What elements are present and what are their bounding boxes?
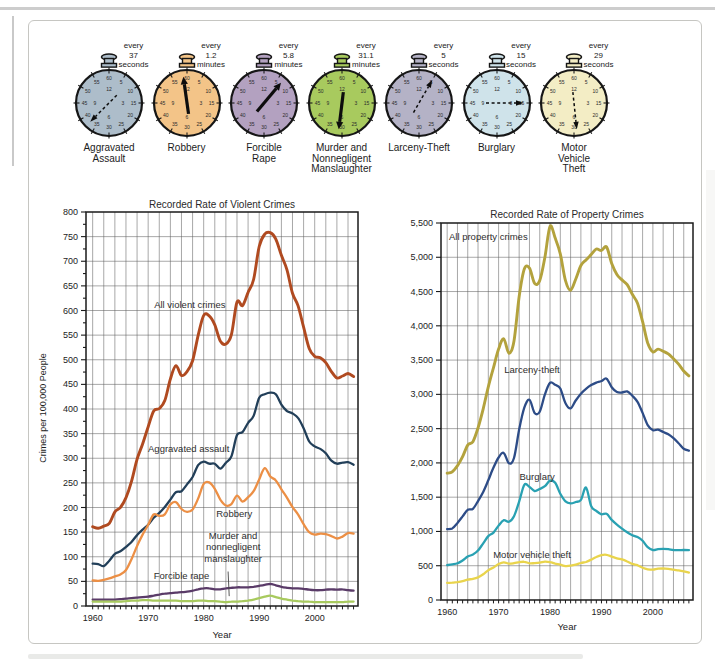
stopwatch-icon: 6051015202530354045505512369 bbox=[70, 51, 148, 141]
svg-text:5: 5 bbox=[275, 79, 278, 85]
stopwatch-icon: 6051015202530354045505512369 bbox=[225, 51, 303, 141]
caption-bleed bbox=[28, 654, 583, 659]
svg-text:500: 500 bbox=[63, 355, 78, 365]
svg-text:50: 50 bbox=[68, 576, 78, 586]
svg-text:45: 45 bbox=[314, 100, 320, 106]
y-axis-ticks: 05001,0001,5002,0002,5003,0003,5004,0004… bbox=[410, 218, 441, 605]
svg-text:10: 10 bbox=[127, 88, 133, 94]
svg-text:1980: 1980 bbox=[194, 613, 214, 623]
svg-text:50: 50 bbox=[395, 88, 401, 94]
svg-text:25: 25 bbox=[351, 121, 357, 127]
series-label-forcible-rape: Forcible rape bbox=[154, 570, 209, 581]
crime-clocks-row: every37seconds60510152025303540455055123… bbox=[70, 41, 613, 186]
svg-text:15: 15 bbox=[363, 100, 369, 106]
series-label-burglary: Burglary bbox=[519, 471, 555, 482]
svg-text:30: 30 bbox=[184, 124, 190, 130]
murder-label-leader-line bbox=[228, 572, 229, 597]
svg-text:6: 6 bbox=[418, 114, 421, 120]
svg-text:60: 60 bbox=[106, 75, 112, 81]
svg-text:10: 10 bbox=[205, 88, 211, 94]
svg-text:3: 3 bbox=[277, 100, 280, 106]
svg-text:55: 55 bbox=[94, 79, 100, 85]
crime-clock-aggravated-assault: every37seconds60510152025303540455055123… bbox=[70, 41, 148, 186]
svg-text:60: 60 bbox=[494, 75, 500, 81]
svg-text:55: 55 bbox=[249, 79, 255, 85]
svg-text:650: 650 bbox=[63, 281, 78, 291]
svg-text:25: 25 bbox=[583, 121, 589, 127]
x-axis-ticks: 19601970198019902000 bbox=[83, 606, 354, 623]
svg-text:10: 10 bbox=[437, 88, 443, 94]
clock-crime-label: Larceny-Theft bbox=[376, 143, 462, 154]
svg-text:5,000: 5,000 bbox=[410, 252, 433, 262]
crime-clock-burglary: every15seconds60510152025303540455055123… bbox=[458, 41, 536, 186]
svg-text:25: 25 bbox=[428, 121, 434, 127]
series-label-motor-vehicle-theft: Motor vehicle theft bbox=[493, 549, 571, 560]
svg-text:12: 12 bbox=[571, 86, 577, 92]
svg-text:50: 50 bbox=[163, 88, 169, 94]
svg-text:4,500: 4,500 bbox=[410, 287, 433, 297]
svg-text:800: 800 bbox=[63, 207, 78, 217]
svg-text:700: 700 bbox=[63, 256, 78, 266]
svg-text:35: 35 bbox=[326, 121, 332, 127]
stopwatch-icon: 6051015202530354045505512369 bbox=[148, 51, 226, 141]
svg-text:0: 0 bbox=[73, 601, 78, 611]
svg-text:3,500: 3,500 bbox=[410, 355, 433, 365]
svg-text:55: 55 bbox=[404, 79, 410, 85]
svg-text:450: 450 bbox=[63, 379, 78, 389]
crime-clock-larceny-theft: every5seconds605101520253035404550551236… bbox=[380, 41, 458, 186]
crime-clock-murder-and-nonnegligent-manslaughter: every31.1minutes605101520253035404550551… bbox=[303, 41, 381, 186]
svg-text:5: 5 bbox=[585, 79, 588, 85]
svg-text:9: 9 bbox=[404, 100, 407, 106]
svg-text:5: 5 bbox=[352, 79, 355, 85]
y-axis-ticks: 0501001502002503003504004505005506006507… bbox=[63, 207, 86, 611]
svg-text:35: 35 bbox=[559, 121, 565, 127]
clock-crime-label: MotorVehicleTheft bbox=[531, 143, 617, 175]
svg-text:9: 9 bbox=[326, 100, 329, 106]
svg-text:10: 10 bbox=[360, 88, 366, 94]
svg-text:6: 6 bbox=[263, 114, 266, 120]
svg-text:12: 12 bbox=[494, 86, 500, 92]
svg-text:1990: 1990 bbox=[591, 607, 611, 617]
svg-text:5,500: 5,500 bbox=[410, 218, 433, 228]
svg-text:60: 60 bbox=[339, 75, 345, 81]
svg-text:1980: 1980 bbox=[540, 607, 560, 617]
svg-text:3: 3 bbox=[199, 100, 202, 106]
svg-text:1,000: 1,000 bbox=[410, 526, 433, 536]
svg-text:40: 40 bbox=[163, 112, 169, 118]
svg-text:5: 5 bbox=[120, 79, 123, 85]
series-label-murder-and: Murder and bbox=[209, 530, 258, 541]
svg-text:5: 5 bbox=[507, 79, 510, 85]
svg-text:6: 6 bbox=[495, 114, 498, 120]
svg-text:30: 30 bbox=[261, 124, 267, 130]
clock-crime-label: Murder andNonnegligentManslaughter bbox=[299, 143, 385, 175]
series-label-all-property-crimes: All property crimes bbox=[449, 231, 528, 242]
svg-text:750: 750 bbox=[63, 232, 78, 242]
grid-lines bbox=[441, 223, 693, 600]
svg-text:60: 60 bbox=[571, 75, 577, 81]
svg-text:50: 50 bbox=[318, 88, 324, 94]
svg-text:10: 10 bbox=[282, 88, 288, 94]
svg-text:25: 25 bbox=[118, 121, 124, 127]
svg-text:25: 25 bbox=[196, 121, 202, 127]
svg-text:10: 10 bbox=[592, 88, 598, 94]
svg-text:55: 55 bbox=[326, 79, 332, 85]
svg-text:9: 9 bbox=[481, 100, 484, 106]
svg-text:2,000: 2,000 bbox=[410, 458, 433, 468]
x-axis-ticks: 19601970198019902000 bbox=[437, 600, 689, 617]
svg-text:150: 150 bbox=[63, 527, 78, 537]
svg-text:1970: 1970 bbox=[489, 607, 509, 617]
svg-text:15: 15 bbox=[441, 100, 447, 106]
clock-crime-label: AggravatedAssault bbox=[66, 143, 152, 164]
svg-text:400: 400 bbox=[63, 404, 78, 414]
page-margin-line bbox=[12, 16, 14, 166]
svg-text:20: 20 bbox=[282, 112, 288, 118]
svg-text:2000: 2000 bbox=[643, 607, 663, 617]
violent-crimes-chart: 0501001502002503003504004505005506006507… bbox=[33, 193, 385, 643]
svg-text:25: 25 bbox=[506, 121, 512, 127]
svg-text:20: 20 bbox=[592, 112, 598, 118]
svg-text:20: 20 bbox=[515, 112, 521, 118]
svg-text:55: 55 bbox=[559, 79, 565, 85]
svg-text:45: 45 bbox=[82, 100, 88, 106]
svg-text:12: 12 bbox=[339, 86, 345, 92]
svg-text:20: 20 bbox=[205, 112, 211, 118]
